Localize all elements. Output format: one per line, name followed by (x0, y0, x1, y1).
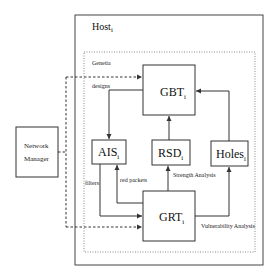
grt-to-ais-edge (117, 165, 143, 203)
holes-to-gbt-edge (196, 91, 229, 141)
designs-label: designs (92, 83, 111, 89)
ais-to-grt-edge (100, 164, 142, 216)
network-manager-box (16, 127, 58, 177)
gbt-label: GBTi (160, 85, 186, 101)
ais-label: AISi (98, 145, 119, 161)
host-label: Hosti (92, 21, 113, 34)
filters-label: filters (85, 180, 100, 186)
generic-label: Genetia (92, 60, 111, 66)
red-packets-label: red packets (120, 177, 148, 183)
holes-label: Holesi (216, 147, 246, 163)
strength-analysis-label: Strength Analysis (173, 172, 216, 178)
vulnerability-analysis-label: Vulnerability Analysis (201, 223, 255, 229)
grt-label: GRTi (159, 210, 184, 226)
network-manager-label-line2: Manager (24, 155, 50, 163)
rsd-label: RSDi (158, 146, 183, 162)
network-manager-label-line1: Network (24, 142, 49, 150)
architecture-diagram: Hosti Genetia Network Manager GBTi AISi … (0, 0, 277, 278)
gbt-to-ais-edge (109, 90, 143, 139)
